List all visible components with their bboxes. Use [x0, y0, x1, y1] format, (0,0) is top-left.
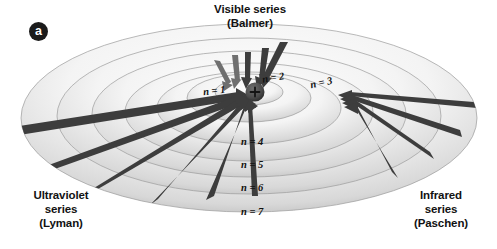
orbit-label-n7: n = 7 [241, 206, 263, 217]
orbit-label-n1: n = 1 [202, 84, 225, 97]
caption-infrared-series: Infrared series (Paschen) [388, 188, 494, 230]
panel-label-badge: a [29, 22, 48, 41]
orbit-label-n4: n = 4 [241, 136, 263, 147]
nucleus [246, 83, 265, 102]
orbit-label-n5: n = 5 [241, 159, 263, 170]
caption-visible-series: Visible series (Balmer) [178, 2, 322, 30]
caption-ultraviolet-series: Ultraviolet series (Lyman) [2, 188, 120, 230]
orbit-label-n6: n = 6 [241, 182, 263, 193]
bohr-model-figure: a n = 1 n = 2 n = 3 n = 4 n = 5 n = 6 n … [0, 0, 497, 249]
